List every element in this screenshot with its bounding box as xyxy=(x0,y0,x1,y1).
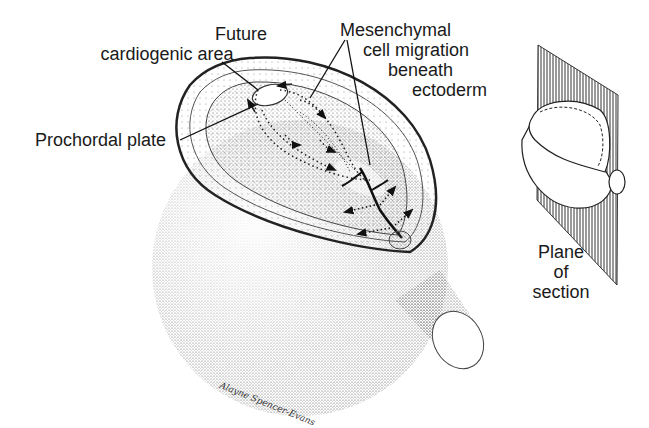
label-line: ectoderm xyxy=(412,80,487,100)
label-plane-of-section: Plane of section xyxy=(521,242,601,302)
label-prochordal-plate: Prochordal plate xyxy=(35,130,166,150)
label-line: Plane xyxy=(521,242,601,262)
label-line: Future xyxy=(215,24,267,44)
embryo-illustration: Future cardiogenic area Prochordal plate… xyxy=(0,0,649,428)
label-line: Mesenchymal xyxy=(340,20,487,40)
label-line: cell migration xyxy=(363,40,487,60)
label-line: beneath xyxy=(388,60,487,80)
embryo-drawing xyxy=(0,0,649,428)
label-line: of xyxy=(521,262,601,282)
label-future-cardiogenic-area: Future cardiogenic area xyxy=(215,24,267,64)
label-mesenchymal-migration: Mesenchymal cell migration beneath ectod… xyxy=(340,20,487,100)
label-line: section xyxy=(521,282,601,302)
label-line: cardiogenic area xyxy=(67,44,267,64)
